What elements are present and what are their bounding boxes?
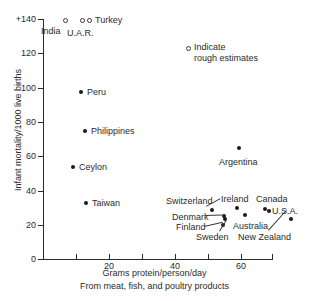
x-tick-10 bbox=[76, 254, 77, 259]
point-label-new-zealand: New Zealand bbox=[238, 232, 291, 242]
data-point-usa[interactable] bbox=[267, 209, 271, 213]
data-point-philippines[interactable] bbox=[83, 129, 87, 133]
point-label-canada: Canada bbox=[256, 194, 288, 204]
point-label-india: India bbox=[41, 26, 61, 36]
y-tick-label-0: 0 bbox=[0, 255, 36, 264]
x-tick-60 bbox=[241, 254, 242, 259]
point-label-switzerland: Switzerland bbox=[166, 196, 213, 206]
y-tick-40 bbox=[38, 191, 43, 192]
data-point-ireland[interactable] bbox=[235, 206, 239, 210]
data-point-india[interactable] bbox=[63, 18, 68, 23]
x-tick-40 bbox=[175, 254, 176, 259]
y-tick-80 bbox=[38, 122, 43, 123]
point-label-argentina: Argentina bbox=[219, 157, 258, 167]
data-point-taiwan[interactable] bbox=[84, 201, 88, 205]
x-axis-subtitle: From meat, fish, and poultry products bbox=[0, 281, 309, 291]
x-tick-50 bbox=[208, 254, 209, 259]
point-label-taiwan: Taiwan bbox=[92, 198, 120, 208]
x-tick-30 bbox=[142, 254, 143, 259]
x-axis-line bbox=[43, 259, 273, 260]
y-tick-20 bbox=[38, 225, 43, 226]
x-axis-title: Grams protein/person/day bbox=[0, 268, 309, 278]
legend-note-line1: Indicate bbox=[194, 42, 226, 53]
legend-open-circle-marker bbox=[186, 46, 191, 51]
data-point-ceylon[interactable] bbox=[71, 165, 75, 169]
y-tick-140 bbox=[38, 19, 43, 20]
data-point-uar[interactable] bbox=[80, 18, 85, 23]
data-point-switzerland[interactable] bbox=[210, 208, 214, 212]
data-point-new-zealand[interactable] bbox=[289, 217, 293, 221]
point-label-ireland: Ireland bbox=[221, 194, 249, 204]
x-tick-70 bbox=[272, 254, 273, 259]
y-axis-title: Infant mortality/1000 live births bbox=[13, 15, 23, 245]
y-tick-120 bbox=[38, 53, 43, 54]
point-label-finland: Finland bbox=[176, 222, 206, 232]
point-label-uar: U.A.R. bbox=[67, 28, 94, 38]
data-point-australia[interactable] bbox=[243, 213, 247, 217]
point-label-ceylon: Ceylon bbox=[79, 162, 107, 172]
point-label-turkey: Turkey bbox=[95, 15, 122, 25]
y-tick-100 bbox=[38, 88, 43, 89]
point-label-australia: Australia bbox=[233, 221, 268, 231]
point-label-philippines: Philippines bbox=[91, 126, 135, 136]
data-point-peru[interactable] bbox=[79, 90, 83, 94]
point-label-denmark: Denmark bbox=[172, 212, 209, 222]
leader-line-denmark bbox=[205, 214, 222, 216]
leader-line-finland bbox=[204, 222, 223, 227]
x-tick-20 bbox=[109, 254, 110, 259]
y-tick-0 bbox=[38, 259, 43, 260]
legend-note-line2: rough estimates bbox=[194, 53, 258, 64]
data-point-turkey[interactable] bbox=[87, 18, 92, 23]
y-axis-line bbox=[43, 19, 44, 260]
point-label-peru: Peru bbox=[87, 87, 106, 97]
y-tick-60 bbox=[38, 156, 43, 157]
point-label-sweden: Sweden bbox=[196, 232, 229, 242]
data-point-argentina[interactable] bbox=[237, 146, 241, 150]
scatter-plot-figure: +140 120 100 80 60 40 20 0 20 40 60 Infa… bbox=[0, 0, 309, 301]
